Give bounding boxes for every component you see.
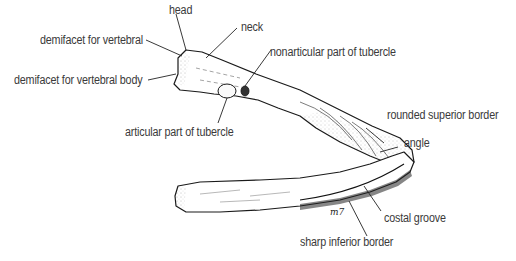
label-demifacet-vertebral-body: demifacet for vertebral body <box>14 73 142 87</box>
label-rounded-superior-border: rounded superior border <box>387 108 498 122</box>
label-neck: neck <box>241 20 263 34</box>
artist-signature: m7 <box>330 207 345 217</box>
articular-tubercle-shape <box>218 84 236 98</box>
label-nonarticular-tubercle: nonarticular part of tubercle <box>270 45 396 59</box>
rib-lower-shaft <box>175 152 414 212</box>
label-demifacet-vertebral: demifacet for vertebral <box>40 33 143 47</box>
label-sharp-inferior-border: sharp inferior border <box>300 235 393 249</box>
label-costal-groove: costal groove <box>384 211 446 225</box>
label-head: head <box>169 3 192 17</box>
label-angle: angle <box>404 136 429 150</box>
label-articular-tubercle: articular part of tubercle <box>125 125 233 139</box>
